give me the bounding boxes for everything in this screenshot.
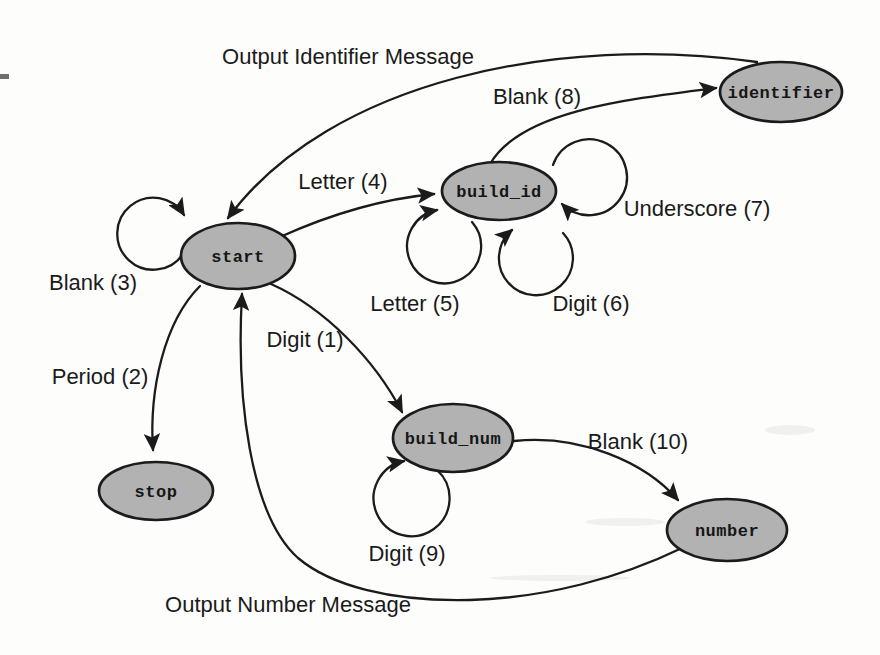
page-edge-mark [0,74,9,79]
transition-underscore-7-self-loop [553,139,627,215]
transition-period-2-arrow [152,286,200,450]
transition-letter-5-self-loop [407,210,481,283]
state-stop: stop [99,462,213,520]
transition-digit-9-label: Digit (9) [368,541,445,566]
state-identifier-label: identifier [727,84,834,103]
state-identifier: identifier [720,62,842,122]
transition-blank-3-label: Blank (3) [49,270,137,295]
state-stop-label: stop [135,483,178,502]
state-number-label: number [695,522,759,541]
state-build-num-label: build_num [405,430,501,449]
transition-digit-1-label: Digit (1) [266,327,343,352]
state-start: start [181,223,295,289]
transition-digit-6-self-loop [499,230,573,295]
transition-blank-10-label: Blank (10) [588,429,688,454]
state-diagram: start build_id identifier build_num numb… [0,0,880,655]
transition-output-number-label: Output Number Message [165,592,411,617]
state-build-num: build_num [393,404,513,472]
transition-period-2-label: Period (2) [52,364,149,389]
transition-digit-6-label: Digit (6) [552,291,629,316]
transition-underscore-7-label: Underscore (7) [624,196,771,221]
state-build-id: build_id [442,162,556,220]
state-start-label: start [211,248,265,267]
transition-letter-4-label: Letter (4) [298,169,387,194]
state-build-id-label: build_id [456,183,542,202]
transition-blank-8-label: Blank (8) [493,84,581,109]
state-diagram-page: start build_id identifier build_num numb… [0,0,880,655]
transition-blank-3-self-loop [117,198,184,270]
scan-noise [765,425,815,435]
scan-noise [585,518,665,526]
transition-output-identifier-label: Output Identifier Message [222,44,474,69]
state-number: number [667,499,787,561]
transition-letter-5-label: Letter (5) [370,291,459,316]
